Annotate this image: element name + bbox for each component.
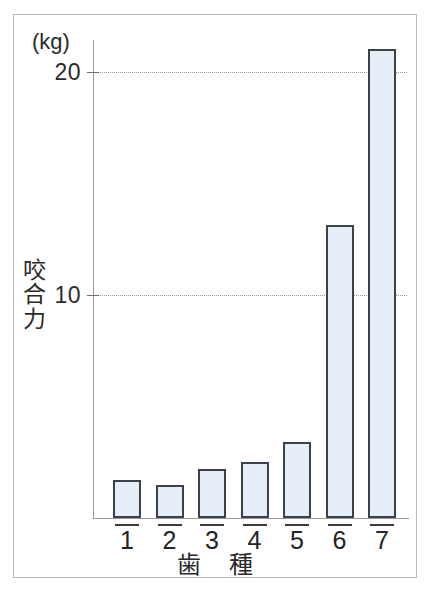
x-tick-label: 7: [362, 527, 402, 553]
x-tick-label: 5: [277, 527, 317, 553]
y-tick-label-20: 20: [29, 61, 81, 84]
bar: [156, 485, 184, 519]
bar: [368, 49, 396, 518]
x-tick-label: 2: [150, 527, 190, 553]
bar: [198, 469, 226, 518]
x-tick-label: 4: [235, 527, 275, 553]
y-axis-title: 咬 合 力: [21, 258, 47, 331]
x-tick-5: 5: [277, 524, 317, 553]
x-tick-7: 7: [362, 524, 402, 553]
bar: [113, 480, 141, 518]
bar: [283, 442, 311, 518]
x-tick-label: 3: [192, 527, 232, 553]
x-tick-3: 3: [192, 524, 232, 553]
x-tick-1: 1: [107, 524, 147, 553]
x-tick-4: 4: [235, 524, 275, 553]
y-axis-unit-label: (kg): [32, 31, 70, 53]
plot-area: [93, 40, 409, 518]
x-axis-line: [93, 518, 409, 519]
x-tick-6: 6: [320, 524, 360, 553]
x-tick-label: 6: [320, 527, 360, 553]
bar: [326, 225, 354, 518]
bar: [241, 462, 269, 518]
x-tick-label: 1: [107, 527, 147, 553]
x-tick-2: 2: [150, 524, 190, 553]
bite-force-bar-chart-figure: (kg) 20 10 咬 合 力 歯 種 1234567: [0, 0, 431, 597]
